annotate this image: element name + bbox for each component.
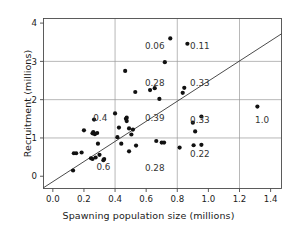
data-point-marker bbox=[125, 116, 129, 120]
cell-annotation: 0.22 bbox=[190, 149, 210, 159]
data-point-marker bbox=[123, 69, 127, 73]
data-point-marker bbox=[163, 60, 167, 64]
data-point-marker bbox=[168, 36, 172, 40]
cell-annotation: 0.06 bbox=[145, 41, 165, 51]
data-point-marker bbox=[148, 88, 152, 92]
x-tick-label: 0.8 bbox=[170, 194, 184, 204]
x-tick-label: 0.2 bbox=[77, 194, 91, 204]
cell-annotation: 0.6 bbox=[96, 162, 110, 172]
data-point-marker bbox=[193, 129, 197, 133]
x-tick-label: 0.6 bbox=[139, 194, 153, 204]
x-tick-label: 0.0 bbox=[46, 194, 60, 204]
data-point-marker bbox=[181, 91, 185, 95]
y-axis-label: Recruitment (millions) bbox=[22, 24, 33, 184]
scatter-plot-figure: 0.00.20.40.60.81.01.21.401234 0.060.110.… bbox=[0, 0, 297, 236]
cell-annotation: 0.33 bbox=[190, 78, 210, 88]
cell-annotation: 1.0 bbox=[255, 115, 269, 125]
data-point-marker bbox=[127, 126, 131, 130]
cell-annotation: 0.28 bbox=[145, 163, 165, 173]
data-point-marker bbox=[113, 111, 117, 115]
data-point-marker bbox=[71, 168, 75, 172]
data-point-marker bbox=[95, 131, 99, 135]
data-point-marker bbox=[80, 150, 84, 154]
data-point-marker bbox=[178, 145, 182, 149]
x-tick-label: 1.2 bbox=[233, 194, 247, 204]
data-point-marker bbox=[117, 126, 121, 130]
data-point-marker bbox=[74, 151, 78, 155]
data-point-marker bbox=[127, 149, 131, 153]
cell-annotation: 0.33 bbox=[190, 115, 210, 125]
plot-canvas: 0.00.20.40.60.81.01.21.401234 0.060.110.… bbox=[0, 0, 297, 236]
cell-annotation: 0.39 bbox=[145, 113, 165, 123]
data-point-marker bbox=[129, 132, 133, 136]
data-point-marker bbox=[119, 142, 123, 146]
x-axis-label: Spawning population size (millions) bbox=[0, 210, 297, 221]
x-tick-label: 1.4 bbox=[264, 194, 278, 204]
data-point-marker bbox=[255, 104, 259, 108]
x-tick-label: 1.0 bbox=[202, 194, 216, 204]
data-point-marker bbox=[133, 90, 137, 94]
data-point-marker bbox=[115, 135, 119, 139]
cell-annotations: 0.060.110.280.330.40.390.331.00.60.280.2… bbox=[93, 41, 269, 172]
data-point-marker bbox=[182, 86, 186, 90]
data-point-marker bbox=[199, 143, 203, 147]
data-point-marker bbox=[97, 153, 101, 157]
data-point-marker bbox=[134, 144, 138, 148]
cell-annotation: 0.4 bbox=[93, 113, 107, 123]
cell-annotation: 0.28 bbox=[145, 78, 165, 88]
data-point-marker bbox=[157, 97, 161, 101]
data-point-marker bbox=[131, 127, 135, 131]
data-point-marker bbox=[102, 157, 106, 161]
data-point-marker bbox=[96, 142, 100, 146]
data-point-marker bbox=[162, 140, 166, 144]
data-point-marker bbox=[94, 155, 98, 159]
data-point-marker bbox=[82, 128, 86, 132]
data-point-marker bbox=[185, 42, 189, 46]
x-tick-label: 0.4 bbox=[108, 194, 122, 204]
data-point-marker bbox=[154, 139, 158, 143]
data-point-marker bbox=[192, 143, 196, 147]
cell-annotation: 0.11 bbox=[190, 41, 210, 51]
